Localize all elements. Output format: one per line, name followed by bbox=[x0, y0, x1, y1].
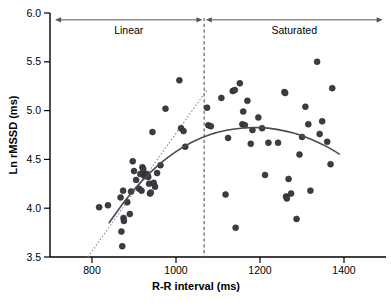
data-point bbox=[328, 161, 334, 167]
data-point bbox=[181, 128, 187, 134]
x-axis-title: R-R interval (ms) bbox=[152, 280, 240, 292]
y-tick-label: 5.0 bbox=[26, 104, 41, 116]
data-point bbox=[284, 195, 290, 201]
data-point bbox=[255, 114, 261, 120]
data-point bbox=[244, 98, 250, 104]
x-tick-label: 1200 bbox=[248, 264, 272, 276]
data-point bbox=[131, 168, 137, 174]
data-point bbox=[294, 216, 300, 222]
data-point bbox=[127, 211, 133, 217]
data-point bbox=[149, 129, 155, 135]
data-point bbox=[121, 218, 127, 224]
data-point bbox=[223, 192, 229, 198]
y-tick-label: 4.5 bbox=[26, 153, 41, 165]
data-point bbox=[148, 190, 154, 196]
data-point bbox=[154, 170, 160, 176]
y-axis-title: Ln rMSSD (ms) bbox=[7, 95, 19, 174]
region-label-linear: Linear bbox=[114, 24, 144, 36]
data-point bbox=[152, 184, 158, 190]
data-point bbox=[233, 225, 239, 231]
data-point bbox=[133, 177, 139, 183]
data-point bbox=[139, 188, 145, 194]
data-point bbox=[329, 85, 335, 91]
data-point bbox=[307, 188, 313, 194]
y-tick-label: 5.5 bbox=[26, 55, 41, 67]
data-point bbox=[319, 118, 325, 124]
data-point bbox=[208, 123, 214, 129]
data-point bbox=[237, 80, 243, 86]
data-point bbox=[275, 140, 281, 146]
data-point bbox=[286, 176, 292, 182]
data-point bbox=[176, 77, 182, 83]
y-tick-label: 6.0 bbox=[26, 7, 41, 19]
data-point bbox=[163, 106, 169, 112]
data-point bbox=[282, 90, 288, 96]
scatter-plot-figure: 3.54.04.55.05.56.0 800100012001400 R-R i… bbox=[0, 0, 391, 306]
figure-background bbox=[0, 0, 391, 306]
y-tick-label: 4.0 bbox=[26, 202, 41, 214]
data-point bbox=[232, 87, 238, 93]
data-point bbox=[265, 140, 271, 146]
figure-root: 3.54.04.55.05.56.0 800100012001400 R-R i… bbox=[0, 0, 391, 306]
data-point bbox=[120, 188, 126, 194]
data-point bbox=[218, 95, 224, 101]
data-point bbox=[240, 109, 246, 115]
region-label-saturated: Saturated bbox=[271, 24, 317, 36]
data-point bbox=[96, 204, 102, 210]
data-point bbox=[302, 104, 308, 110]
data-point bbox=[105, 202, 111, 208]
data-point bbox=[118, 229, 124, 235]
data-point bbox=[296, 152, 302, 158]
data-point bbox=[225, 135, 231, 141]
data-point bbox=[262, 172, 268, 178]
data-point bbox=[317, 131, 323, 137]
x-tick-label: 1400 bbox=[332, 264, 356, 276]
data-point bbox=[305, 121, 311, 127]
data-point bbox=[119, 243, 125, 249]
data-point bbox=[288, 191, 294, 197]
data-point bbox=[248, 141, 254, 147]
data-point bbox=[314, 59, 320, 65]
data-point bbox=[118, 194, 124, 200]
x-tick-label: 1000 bbox=[164, 264, 188, 276]
data-point bbox=[130, 158, 136, 164]
x-tick-label: 800 bbox=[83, 264, 101, 276]
y-tick-label: 3.5 bbox=[26, 251, 41, 263]
data-point bbox=[324, 139, 330, 145]
data-point bbox=[204, 105, 210, 111]
